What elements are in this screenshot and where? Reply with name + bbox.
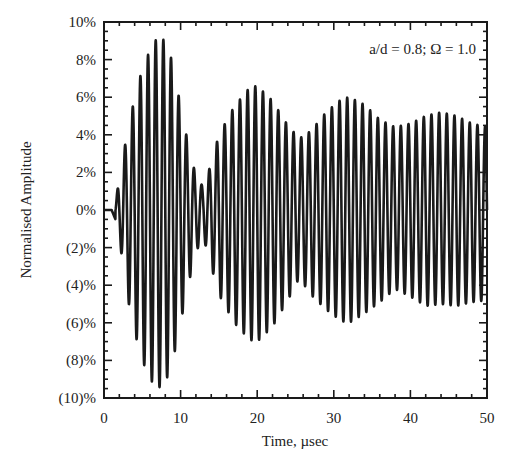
waveform-chart: 10%8%6%4%2%0%(2)%(4)%(6)%(8)%(10)% 01020… xyxy=(0,0,508,462)
y-tick-label: (4)% xyxy=(66,277,96,294)
x-tick-label: 20 xyxy=(250,410,265,426)
x-tick-label: 10 xyxy=(173,410,188,426)
y-tick-label: (6)% xyxy=(66,315,96,332)
y-tick-label: 6% xyxy=(76,89,96,105)
y-tick-label: 0% xyxy=(76,202,96,218)
parameter-annotation: a/d = 0.8; Ω = 1.0 xyxy=(369,41,476,57)
y-axis-tick-labels: 10%8%6%4%2%0%(2)%(4)%(6)%(8)%(10)% xyxy=(59,14,97,407)
x-axis-tick-labels: 01020304050 xyxy=(100,410,494,426)
x-tick-label: 0 xyxy=(100,410,108,426)
y-tick-label: (8)% xyxy=(66,352,96,369)
x-tick-label: 50 xyxy=(480,410,495,426)
x-tick-label: 30 xyxy=(326,410,341,426)
y-tick-label: 8% xyxy=(76,52,96,68)
amplitude-series-line xyxy=(104,40,487,387)
x-tick-label: 40 xyxy=(403,410,418,426)
y-tick-label: (2)% xyxy=(66,240,96,257)
x-axis-title: Time, µsec xyxy=(262,433,329,449)
y-tick-label: 10% xyxy=(69,14,97,30)
y-tick-label: 4% xyxy=(76,127,96,143)
y-axis-title: Normalised Amplitude xyxy=(18,141,34,278)
y-tick-label: 2% xyxy=(76,164,96,180)
y-tick-label: (10)% xyxy=(59,390,97,407)
